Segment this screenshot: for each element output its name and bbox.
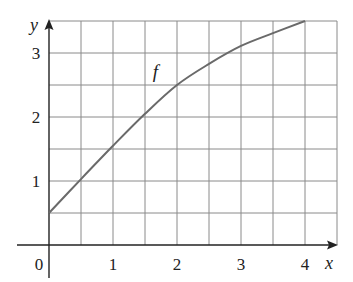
y-axis-label: y	[28, 15, 38, 35]
chart: 01234123 x y f	[0, 0, 353, 282]
x-tick-label: 1	[109, 255, 118, 274]
x-tick-label: 0	[35, 255, 44, 274]
tick-labels: 01234123	[32, 44, 310, 274]
y-tick-label: 2	[32, 108, 41, 127]
x-axis-label: x	[324, 253, 333, 273]
x-tick-label: 2	[173, 255, 182, 274]
y-tick-label: 3	[32, 44, 41, 63]
grid-lines	[49, 21, 337, 245]
y-tick-label: 1	[32, 172, 41, 191]
x-tick-label: 4	[301, 255, 310, 274]
curve-label-f: f	[153, 61, 161, 82]
x-tick-label: 3	[237, 255, 246, 274]
